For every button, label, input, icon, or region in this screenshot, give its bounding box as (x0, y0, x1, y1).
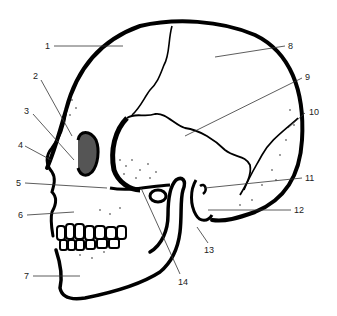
ear-canal (150, 190, 166, 202)
skull-diagram: 1 2 3 4 5 6 7 8 9 10 11 12 13 14 (0, 0, 337, 316)
leader-line-8 (215, 46, 285, 57)
label-4: 4 (18, 140, 23, 150)
leader-line-5 (25, 183, 107, 188)
skull-drawing (0, 0, 337, 316)
coronal-suture (132, 26, 172, 115)
styloid-hook (200, 185, 206, 194)
label-12: 12 (294, 205, 304, 215)
leader-line-13 (197, 227, 208, 243)
label-2: 2 (33, 71, 38, 81)
temporal-fossa-edge (113, 118, 140, 190)
label-11: 11 (305, 173, 314, 183)
face-profile (47, 110, 66, 236)
orbit (78, 133, 98, 176)
teeth (57, 224, 126, 250)
label-14: 14 (178, 277, 188, 287)
cranium-outline (47, 21, 302, 220)
label-9: 9 (305, 72, 310, 82)
label-7: 7 (24, 271, 29, 281)
label-6: 6 (18, 210, 23, 220)
label-5: 5 (16, 178, 21, 188)
label-8: 8 (288, 41, 293, 51)
label-3: 3 (24, 106, 29, 116)
squamous-suture (127, 114, 250, 195)
label-1: 1 (45, 41, 50, 51)
zygomatic-arch (110, 185, 170, 189)
label-13: 13 (204, 245, 214, 255)
label-10: 10 (309, 107, 319, 117)
leader-line-9 (185, 78, 302, 136)
